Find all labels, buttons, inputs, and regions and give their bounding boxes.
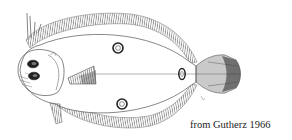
fish-illustration: from Gutherz 1966 bbox=[0, 0, 292, 140]
pelvic-fin bbox=[50, 103, 62, 124]
figure-caption: from Gutherz 1966 bbox=[190, 119, 270, 130]
caudal-fin bbox=[196, 55, 241, 93]
annotation-mark bbox=[201, 96, 205, 100]
body-outline bbox=[20, 34, 196, 113]
